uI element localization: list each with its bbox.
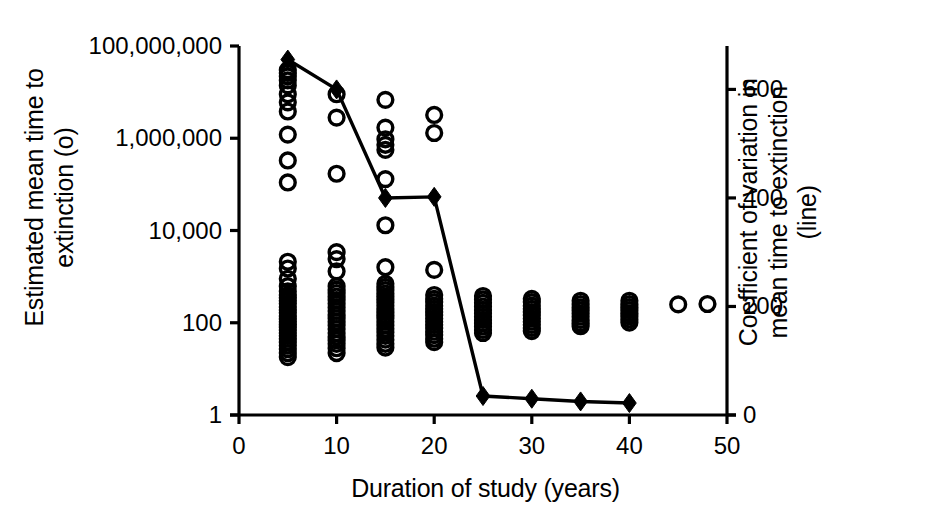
cv-diamond-marker [574, 392, 588, 411]
cv-diamond-marker [427, 187, 441, 206]
cv-diamond-marker [525, 389, 539, 408]
data-point-circle [329, 166, 344, 181]
chart-figure: Estimated mean time to extinction (o) Co… [0, 0, 946, 526]
cv-diamond-marker [476, 387, 490, 406]
data-point-circle [378, 260, 393, 275]
data-point-circle [280, 127, 295, 142]
data-point-circle [280, 104, 295, 119]
data-point-circle [700, 297, 715, 312]
axis-lines [230, 46, 736, 424]
data-point-circle [280, 153, 295, 168]
data-point-circle [427, 262, 442, 277]
data-point-circle [671, 297, 686, 312]
data-point-circle [427, 108, 442, 123]
data-point-circle [378, 218, 393, 233]
data-point-circle [378, 92, 393, 107]
data-point-circle [329, 110, 344, 125]
data-point-circle [280, 175, 295, 190]
plot-area [0, 0, 946, 526]
data-point-circle [427, 126, 442, 141]
cv-line-layer [281, 50, 636, 412]
cv-diamond-marker [623, 394, 637, 413]
